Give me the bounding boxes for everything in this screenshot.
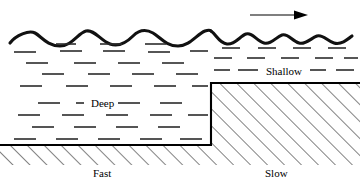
- deep-water-dashes: [14, 44, 208, 139]
- wave-refraction-diagram: Deep Shallow Fast Slow: [0, 0, 360, 188]
- diagram-canvas: [0, 0, 360, 188]
- label-slow: Slow: [265, 168, 288, 179]
- label-fast: Fast: [93, 168, 111, 179]
- sea-bed: [0, 80, 360, 166]
- label-shallow: Shallow: [263, 65, 305, 78]
- sea-bed-hatching: [0, 80, 360, 166]
- propagation-direction-arrow: [250, 11, 308, 20]
- wave-shallow-segment: [211, 31, 352, 44]
- label-deep: Deep: [88, 97, 117, 110]
- arrow-head: [294, 11, 308, 20]
